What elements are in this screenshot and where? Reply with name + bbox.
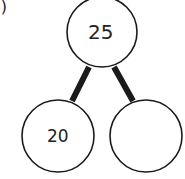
part-circle-right xyxy=(110,100,182,172)
part-value-left: 20 xyxy=(47,128,69,145)
problem-label: a) xyxy=(0,0,7,15)
connector-left xyxy=(72,67,89,101)
whole-value: 25 xyxy=(88,22,113,42)
connector-right xyxy=(114,67,133,101)
